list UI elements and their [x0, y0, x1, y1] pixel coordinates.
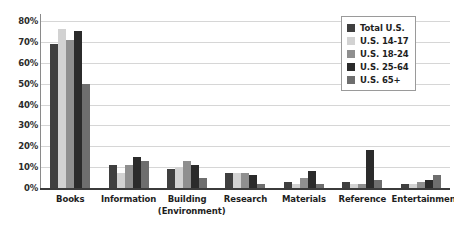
y-axis-tick-label: 0%: [4, 183, 38, 193]
bar: [425, 180, 433, 188]
x-axis-tick-label: Entertainment: [392, 193, 450, 205]
legend-swatch-icon: [347, 50, 355, 58]
bar-group: [158, 14, 216, 188]
y-axis: 80%70%60%50%40%30%20%10%0%: [0, 0, 38, 252]
bar-group: [275, 14, 333, 188]
x-axis-tick-label: Research: [216, 193, 274, 205]
x-axis-line: [40, 188, 450, 190]
bar-group: [41, 14, 99, 188]
x-axis-tick-label: Materials: [275, 193, 333, 205]
bar: [433, 175, 441, 188]
legend-item[interactable]: U.S. 25-64: [347, 60, 409, 73]
bar: [50, 44, 58, 188]
bar: [257, 184, 265, 188]
y-axis-tick-label: 60%: [4, 58, 38, 68]
chart-legend: Total U.S.U.S. 14-17U.S. 18-24U.S. 25-64…: [341, 16, 416, 91]
bar-group: [99, 14, 157, 188]
y-axis-tick-label: 70%: [4, 37, 38, 47]
x-axis-tick-label: Information: [99, 193, 157, 205]
bar: [183, 161, 191, 188]
legend-swatch-icon: [347, 37, 355, 45]
x-axis-tick-label-line: Entertainment: [392, 193, 450, 205]
legend-item[interactable]: Total U.S.: [347, 21, 409, 34]
bar: [417, 182, 425, 188]
x-axis-tick-label-line: Books: [41, 193, 99, 205]
bar: [141, 161, 149, 188]
bar: [117, 173, 125, 188]
legend-item-label: U.S. 14-17: [360, 36, 409, 46]
x-axis-tick-label: Building(Environment): [158, 193, 216, 217]
legend-item-label: U.S. 18-24: [360, 49, 409, 59]
bar: [409, 184, 417, 188]
bar: [366, 150, 374, 188]
bar: [374, 180, 382, 188]
bar: [241, 173, 249, 188]
x-axis-tick-label: Reference: [333, 193, 391, 205]
y-axis-tick-label: 10%: [4, 162, 38, 172]
x-axis-tick-label-line: Materials: [275, 193, 333, 205]
bar: [82, 84, 90, 188]
bar: [125, 165, 133, 188]
bar: [292, 184, 300, 188]
bar: [358, 184, 366, 188]
legend-item[interactable]: U.S. 65+: [347, 73, 409, 86]
bar: [401, 184, 409, 188]
bar: [308, 171, 316, 188]
legend-item-label: U.S. 65+: [360, 75, 401, 85]
bar: [342, 182, 350, 188]
x-axis-tick-label-line: (Environment): [158, 205, 216, 217]
bar: [316, 184, 324, 188]
bar: [167, 169, 175, 188]
legend-item-label: U.S. 25-64: [360, 62, 409, 72]
bar: [133, 157, 141, 188]
x-axis-tick-label-line: Reference: [333, 193, 391, 205]
bar: [191, 165, 199, 188]
bar: [300, 178, 308, 188]
legend-item[interactable]: U.S. 18-24: [347, 47, 409, 60]
bar: [175, 167, 183, 188]
x-axis-tick-label: Books: [41, 193, 99, 205]
x-axis-tick-label-line: Research: [216, 193, 274, 205]
x-axis: BooksInformationBuilding(Environment)Res…: [41, 193, 450, 243]
y-axis-tick-label: 40%: [4, 100, 38, 110]
bar: [249, 175, 257, 188]
bar: [66, 40, 74, 188]
bar: [109, 165, 117, 188]
y-axis-tick-label: 30%: [4, 120, 38, 130]
bar: [225, 173, 233, 188]
bar: [284, 182, 292, 188]
y-axis-tick-label: 80%: [4, 16, 38, 26]
x-axis-tick-label-line: Building: [158, 193, 216, 205]
x-axis-tick-label-line: Information: [99, 193, 157, 205]
legend-item[interactable]: U.S. 14-17: [347, 34, 409, 47]
bar-group: [216, 14, 274, 188]
bar-chart: 80%70%60%50%40%30%20%10%0% BooksInformat…: [0, 0, 454, 252]
bar: [58, 29, 66, 188]
bar: [199, 178, 207, 188]
legend-swatch-icon: [347, 63, 355, 71]
y-axis-tick-label: 20%: [4, 141, 38, 151]
bar: [350, 184, 358, 188]
bar: [233, 173, 241, 188]
legend-item-label: Total U.S.: [360, 23, 405, 33]
y-axis-tick-label: 50%: [4, 79, 38, 89]
bar: [74, 31, 82, 188]
legend-swatch-icon: [347, 24, 355, 32]
legend-swatch-icon: [347, 76, 355, 84]
